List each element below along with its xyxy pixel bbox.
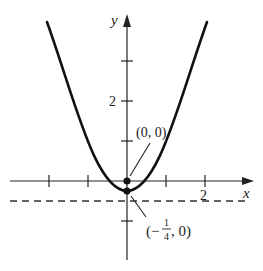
- svg-text:1: 1: [164, 217, 169, 228]
- x-axis-label: x: [242, 185, 250, 201]
- y-tick-label-2: 2: [109, 94, 116, 109]
- x-tick-label-2: 2: [200, 188, 207, 203]
- y-axis-label: y: [109, 12, 118, 28]
- vertex-leader-line: [131, 196, 146, 217]
- x-axis-arrow-icon: [242, 177, 254, 185]
- svg-text:4: 4: [164, 231, 169, 242]
- parabola-chart: y x 2 2 (0, 0) (− 1 4 , 0): [0, 0, 263, 271]
- focus-point-label: (0, 0): [136, 125, 167, 141]
- focus-leader-line: [130, 143, 150, 176]
- y-axis-arrow-icon: [123, 14, 131, 27]
- vertex-point: [123, 187, 130, 194]
- svg-text:(−: (−: [146, 223, 159, 240]
- vertex-point-label: (− 1 4 , 0): [146, 217, 191, 242]
- svg-text:, 0): , 0): [171, 223, 191, 240]
- focus-point: [123, 177, 130, 184]
